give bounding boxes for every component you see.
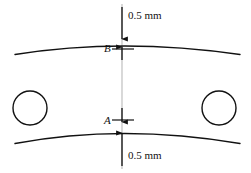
dimension-diagram: 0.5 mm 0.5 mm B A <box>0 0 251 173</box>
right-hole-circle <box>202 91 236 125</box>
left-hole-circle <box>13 91 47 125</box>
diagram-canvas <box>0 0 251 173</box>
bottom-dimension-label: 0.5 mm <box>128 150 162 161</box>
bottom-arc <box>15 134 240 144</box>
top-arc <box>15 46 240 55</box>
point-label-a: A <box>104 115 111 126</box>
point-label-b: B <box>104 43 111 54</box>
top-dimension-label: 0.5 mm <box>128 10 162 21</box>
